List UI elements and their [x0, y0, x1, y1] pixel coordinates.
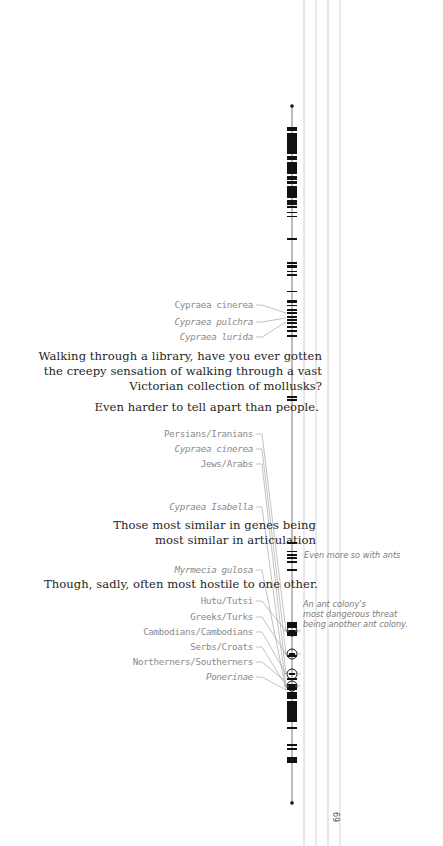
bar-segment [287, 265, 297, 268]
bar-segment [287, 569, 297, 571]
bar-segment [287, 162, 297, 174]
leader-line [256, 449, 286, 654]
bar-segment [287, 727, 297, 729]
label-jews-arabs: Jews/Arabs [201, 458, 253, 469]
bar-segment [287, 319, 297, 321]
axis-end-dot [290, 104, 294, 108]
bar-segment [287, 127, 297, 131]
label-serbs-croats: Serbs/Croats [190, 641, 253, 652]
page-number: 69 [331, 812, 340, 822]
bar-segment [287, 551, 297, 552]
quote-line: most similar in articulation [113, 533, 316, 548]
quote-library: Walking through a library, have you ever… [39, 349, 322, 394]
bar-segment [287, 156, 297, 160]
quote-hostile: Though, sadly, often most hostile to one… [44, 577, 318, 592]
label-cypraea-cinerea-1: Cypraea cinerea [175, 299, 253, 310]
bar-segment [287, 748, 297, 750]
quote-line: the creepy sensation of walking through … [39, 364, 322, 379]
label-cambodians: Cambodians/Cambodians [143, 626, 253, 637]
bar-segment [287, 200, 297, 205]
bar-segment [287, 216, 297, 217]
label-cypraea-cinerea-2: Cypraea cinerea [175, 443, 253, 454]
note-line: most dangerous threat [303, 609, 408, 619]
label-hutu-tutsi: Hutu/Tutsi [201, 595, 253, 606]
bar-segment [287, 330, 297, 332]
ring-bar [289, 630, 295, 632]
genome-annotation-diagram: Cypraea cinereaCypraea pulchraCypraea lu… [0, 0, 443, 846]
label-greeks-turks: Greeks/Turks [190, 611, 253, 622]
note-line: being another ant colony. [303, 619, 408, 629]
bar-segment [287, 300, 297, 303]
bar-segment [287, 291, 297, 292]
note-line: An ant colony's [303, 599, 408, 609]
bar-segment [287, 271, 297, 272]
bar-segment [287, 206, 297, 208]
ring-bar [289, 673, 295, 675]
bar-segment [287, 186, 297, 198]
leader-line [256, 305, 286, 313]
bar-segment [287, 396, 297, 398]
bar-chart-graphic [0, 0, 443, 846]
label-cypraea-isabella: Cypraea Isabella [169, 501, 253, 512]
bar-segment [287, 176, 297, 180]
quote-tell-apart: Even harder to tell apart than people. [94, 400, 319, 415]
bar-segment [287, 692, 297, 699]
bar-segment [287, 561, 297, 563]
ring-bar [289, 685, 295, 687]
leader-line [256, 464, 286, 674]
bar-segment [287, 133, 297, 154]
leader-line [256, 318, 286, 322]
bar-segment [287, 262, 297, 264]
bar-segment [287, 557, 297, 559]
bar-segment [287, 326, 297, 328]
quote-line: Though, sadly, often most hostile to one… [44, 577, 318, 592]
bar-segment [287, 701, 297, 722]
label-cypraea-lurida: Cypraea lurida [180, 331, 253, 342]
leader-line [256, 322, 286, 337]
bar-segment [287, 335, 297, 337]
quote-line: Walking through a library, have you ever… [39, 349, 322, 364]
axis-end-dot [290, 801, 294, 805]
bar-segment [287, 744, 297, 746]
note-line: Even more so with ants [304, 550, 400, 560]
note-ants: Even more so with ants [304, 550, 400, 560]
quote-line: Those most similar in genes being [113, 518, 316, 533]
quote-genes: Those most similar in genes beingmost si… [113, 518, 316, 548]
bar-segment [287, 274, 297, 276]
bar-segment [287, 212, 297, 213]
bar-segment [287, 316, 297, 318]
bar-segment [287, 554, 297, 556]
bar-segment [287, 655, 297, 657]
ring-bar [289, 653, 295, 655]
label-ponerinae: Ponerinae [206, 671, 253, 682]
bar-segment [287, 238, 297, 240]
note-ant-colony: An ant colony'smost dangerous threatbein… [303, 599, 408, 629]
label-cypraea-pulchra: Cypraea pulchra [175, 316, 253, 327]
quote-line: Even harder to tell apart than people. [94, 400, 319, 415]
bar-segment [287, 305, 297, 306]
bar-segment [287, 181, 297, 184]
label-persians-iranians: Persians/Iranians [164, 428, 253, 439]
label-myrmecia-gulosa: Myrmecia gulosa [175, 564, 253, 575]
bar-segment [287, 309, 297, 311]
bar-segment [287, 757, 297, 763]
quote-line: Victorian collection of mollusks? [39, 379, 322, 394]
bar-segment [287, 312, 297, 314]
bar-segment [287, 322, 297, 324]
label-northerners-southerners: Northerners/Southerners [133, 656, 253, 667]
